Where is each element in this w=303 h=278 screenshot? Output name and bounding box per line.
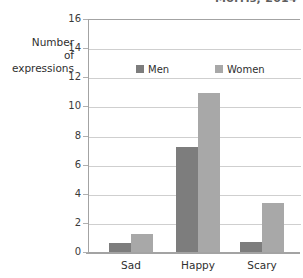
legend-swatch-men-icon (136, 65, 144, 73)
y-tick-label: 16 (55, 13, 81, 24)
y-tick-label: 14 (55, 42, 81, 53)
legend-label-women: Women (227, 64, 265, 75)
bar-happy-women (198, 93, 220, 252)
chart-legend: Men Women (136, 63, 266, 75)
bar-sad-men (109, 243, 131, 252)
y-tick-label: 8 (55, 130, 81, 141)
legend-entry-women: Women (215, 63, 265, 75)
citation-strip: Morris, 2014 (0, 0, 303, 9)
x-category-label-scary: Scary (232, 259, 292, 271)
bar-scary-women (262, 203, 284, 253)
bars-layer (88, 19, 300, 252)
y-tick-label: 12 (55, 71, 81, 82)
bar-scary-men (240, 242, 262, 252)
bar-happy-men (176, 147, 198, 252)
x-axis-line (86, 252, 300, 254)
y-tick-mark (83, 252, 88, 253)
legend-swatch-women-icon (215, 65, 223, 73)
y-tick-label: 4 (55, 188, 81, 199)
x-category-label-happy: Happy (168, 259, 228, 271)
citation-text: Morris, 2014 (215, 0, 297, 5)
y-tick-label: 10 (55, 100, 81, 111)
legend-entry-men: Men (136, 63, 169, 75)
y-tick-label: 2 (55, 217, 81, 228)
x-category-label-sad: Sad (101, 259, 161, 271)
legend-label-men: Men (148, 64, 169, 75)
y-tick-label: 0 (55, 246, 81, 257)
bar-sad-women (131, 234, 153, 252)
y-tick-label: 6 (55, 159, 81, 170)
